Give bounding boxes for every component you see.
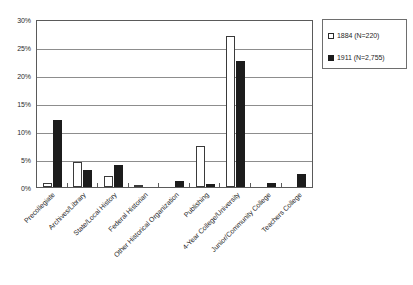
bar bbox=[175, 181, 184, 187]
bar bbox=[226, 36, 235, 187]
category-group bbox=[159, 21, 190, 187]
bar bbox=[73, 162, 82, 187]
y-axis-tick-label: 25% bbox=[1, 45, 31, 52]
y-axis-tick-label: 0% bbox=[1, 185, 31, 192]
bar bbox=[206, 184, 215, 187]
y-axis-tick-label: 20% bbox=[1, 73, 31, 80]
bar bbox=[43, 183, 52, 187]
filled-square-swatch bbox=[328, 55, 334, 61]
category-group bbox=[129, 21, 160, 187]
bar bbox=[267, 183, 276, 187]
category-group bbox=[282, 21, 313, 187]
bar bbox=[134, 185, 143, 187]
category-group bbox=[190, 21, 221, 187]
y-axis-tick-label: 30% bbox=[1, 17, 31, 24]
category-group bbox=[220, 21, 251, 187]
x-axis-tick-label: 4-Year College/University bbox=[181, 191, 241, 251]
bar bbox=[83, 170, 92, 187]
category-group bbox=[37, 21, 68, 187]
legend-item-label: 1884 (N=220) bbox=[337, 32, 379, 40]
category-group bbox=[251, 21, 282, 187]
y-axis-tick-label: 10% bbox=[1, 129, 31, 136]
category-group bbox=[68, 21, 99, 187]
x-axis-tick-label: Publishing bbox=[183, 191, 211, 219]
bar bbox=[104, 176, 113, 187]
x-axis-labels: PrecollegiateArchives/LibraryState/Local… bbox=[36, 189, 313, 285]
plot-area bbox=[36, 20, 313, 188]
category-group bbox=[98, 21, 129, 187]
open-square-swatch bbox=[328, 33, 334, 39]
x-axis-tick-label: Other Historical Organization bbox=[112, 191, 180, 259]
bar bbox=[114, 165, 123, 187]
bar bbox=[53, 120, 62, 187]
bar bbox=[196, 146, 205, 187]
legend-item: 1911 (N=2,755) bbox=[328, 49, 406, 66]
y-axis: 30%25%20%15%10%5%0% bbox=[0, 0, 34, 285]
bar bbox=[297, 174, 306, 187]
chart-legend: 1884 (N=220)1911 (N=2,755) bbox=[322, 19, 407, 69]
bars-layer bbox=[37, 21, 312, 187]
y-axis-tick-label: 15% bbox=[1, 101, 31, 108]
bar bbox=[236, 61, 245, 187]
legend-item-label: 1911 (N=2,755) bbox=[337, 54, 385, 62]
y-axis-tick-label: 5% bbox=[1, 157, 31, 164]
bar-chart: 30%25%20%15%10%5%0% PrecollegiateArchive… bbox=[0, 0, 413, 285]
x-axis-tick-label: Junior/Community College bbox=[210, 191, 273, 254]
legend-item: 1884 (N=220) bbox=[328, 27, 406, 44]
